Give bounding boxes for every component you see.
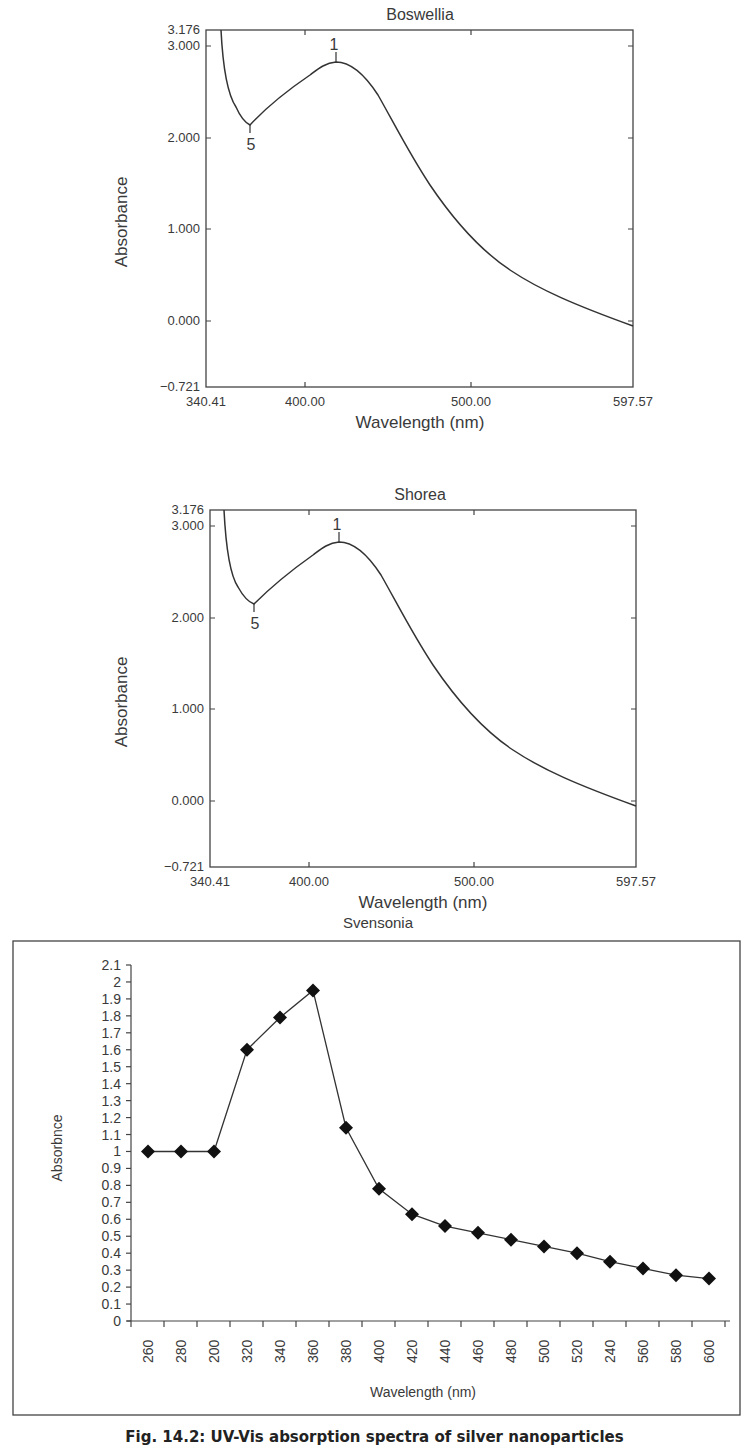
x-tick-label: 280 bbox=[173, 1339, 189, 1363]
svg-text:597.57: 597.57 bbox=[616, 874, 656, 889]
shorea-chart: Shorea 3.176 3.000 2.000 1.000 0.000 −0.… bbox=[0, 480, 749, 960]
boswellia-chart: Boswellia 3.176 3.000 2.000 1.000 0.000 … bbox=[0, 0, 749, 480]
data-line bbox=[148, 990, 709, 1278]
diamond-marker bbox=[636, 1261, 650, 1275]
peak-label: 1 bbox=[333, 516, 342, 533]
x-tick-label: 240 bbox=[602, 1339, 618, 1363]
diamond-marker bbox=[537, 1239, 551, 1253]
y-tick-label: 0.7 bbox=[102, 1194, 122, 1210]
svg-text:3.176: 3.176 bbox=[171, 502, 204, 517]
y-tick-label: 0.1 bbox=[102, 1296, 122, 1312]
y-axis-label: Absorbance bbox=[112, 657, 131, 748]
y-tick-label: 1.6 bbox=[102, 1042, 122, 1058]
svg-text:500.00: 500.00 bbox=[451, 394, 491, 409]
y-axis: 3.176 3.000 2.000 1.000 0.000 −0.721 bbox=[160, 22, 633, 394]
y-tick-label: 1.2 bbox=[102, 1110, 122, 1126]
diamond-marker bbox=[339, 1121, 353, 1135]
svg-text:340.41: 340.41 bbox=[190, 874, 230, 889]
svg-text:400.00: 400.00 bbox=[289, 874, 329, 889]
data-markers bbox=[141, 983, 716, 1285]
x-tick-label: 380 bbox=[338, 1339, 354, 1363]
x-axis: 2602802003203403603804004204404604805005… bbox=[127, 1321, 730, 1363]
x-tick-label: 600 bbox=[701, 1339, 717, 1363]
y-tick-label: 1.3 bbox=[102, 1093, 122, 1109]
y-tick-label: 2.1 bbox=[102, 957, 122, 973]
peak-label: 1 bbox=[330, 36, 339, 53]
x-tick-label: 260 bbox=[140, 1339, 156, 1363]
y-axis: 2.121.91.81.71.61.51.41.31.21.110.90.80.… bbox=[102, 957, 131, 1329]
x-tick-label: 480 bbox=[503, 1339, 519, 1363]
x-tick-label: 500 bbox=[536, 1339, 552, 1363]
diamond-marker bbox=[306, 983, 320, 997]
y-axis: 3.176 3.000 2.000 1.000 0.000 −0.721 bbox=[164, 502, 636, 874]
svg-text:−0.721: −0.721 bbox=[160, 379, 200, 394]
diamond-marker bbox=[174, 1144, 188, 1158]
x-axis-label: Wavelength (nm) bbox=[370, 1384, 476, 1400]
y-tick-label: 0.3 bbox=[102, 1262, 122, 1278]
x-tick-label: 520 bbox=[569, 1339, 585, 1363]
plot-frame bbox=[206, 30, 633, 387]
svg-text:3.000: 3.000 bbox=[171, 518, 204, 533]
svg-text:2.000: 2.000 bbox=[167, 130, 200, 145]
svg-text:1.000: 1.000 bbox=[171, 701, 204, 716]
svg-text:2.000: 2.000 bbox=[171, 610, 204, 625]
x-axis-label: Wavelength (nm) bbox=[356, 413, 485, 432]
y-tick-label: 1.1 bbox=[102, 1127, 122, 1143]
x-tick-label: 400 bbox=[371, 1339, 387, 1363]
y-tick-label: 0 bbox=[113, 1313, 121, 1329]
diamond-marker bbox=[438, 1219, 452, 1233]
x-axis-label: Wavelength (nm) bbox=[359, 893, 488, 912]
y-tick-label: 1.5 bbox=[102, 1059, 122, 1075]
x-tick-label: 440 bbox=[437, 1339, 453, 1363]
svg-text:500.00: 500.00 bbox=[454, 874, 494, 889]
svg-text:3.000: 3.000 bbox=[167, 38, 200, 53]
y-tick-label: 0.5 bbox=[102, 1228, 122, 1244]
diamond-marker bbox=[471, 1226, 485, 1240]
svg-text:0.000: 0.000 bbox=[171, 793, 204, 808]
y-axis-label: Absorbance bbox=[112, 177, 131, 268]
svg-text:−0.721: −0.721 bbox=[164, 859, 204, 874]
diamond-marker bbox=[702, 1272, 716, 1286]
y-tick-label: 0.6 bbox=[102, 1211, 122, 1227]
y-tick-label: 1.4 bbox=[102, 1076, 122, 1092]
spectrum-line bbox=[224, 510, 636, 806]
chart-title: Svensonia bbox=[343, 914, 414, 931]
diamond-marker bbox=[207, 1144, 221, 1158]
figure-caption: Fig. 14.2: UV-Vis absorption spectra of … bbox=[0, 1428, 749, 1446]
y-tick-label: 1.8 bbox=[102, 1008, 122, 1024]
svg-text:340.41: 340.41 bbox=[186, 394, 226, 409]
spectrum-line bbox=[221, 30, 633, 326]
y-tick-label: 2 bbox=[113, 974, 121, 990]
x-tick-label: 580 bbox=[668, 1339, 684, 1363]
y-tick-label: 0.8 bbox=[102, 1177, 122, 1193]
svensonia-chart: Svensonia 2.121.91.81.71.61.51.41.31.21.… bbox=[0, 930, 749, 1430]
valley-label: 5 bbox=[247, 136, 256, 153]
chart-title: Shorea bbox=[394, 486, 446, 503]
svg-text:400.00: 400.00 bbox=[285, 394, 325, 409]
diamond-marker bbox=[570, 1246, 584, 1260]
diamond-marker bbox=[405, 1207, 419, 1221]
diamond-marker bbox=[372, 1182, 386, 1196]
x-tick-label: 560 bbox=[635, 1339, 651, 1363]
svg-text:1.000: 1.000 bbox=[167, 221, 200, 236]
x-tick-label: 320 bbox=[239, 1339, 255, 1363]
plot-frame bbox=[210, 510, 636, 867]
x-tick-label: 460 bbox=[470, 1339, 486, 1363]
svg-text:3.176: 3.176 bbox=[167, 22, 200, 37]
valley-label: 5 bbox=[251, 615, 260, 632]
y-axis-label: Absorbnce bbox=[49, 1114, 65, 1181]
diamond-marker bbox=[141, 1144, 155, 1158]
x-tick-label: 340 bbox=[272, 1339, 288, 1363]
y-tick-label: 1.9 bbox=[102, 991, 122, 1007]
diamond-marker bbox=[603, 1255, 617, 1269]
y-tick-label: 0.2 bbox=[102, 1279, 122, 1295]
x-axis: 340.41 400.00 500.00 597.57 bbox=[190, 510, 656, 889]
x-axis: 340.41 400.00 500.00 597.57 bbox=[186, 30, 653, 409]
svg-text:0.000: 0.000 bbox=[167, 313, 200, 328]
x-tick-label: 360 bbox=[305, 1339, 321, 1363]
x-tick-label: 200 bbox=[206, 1339, 222, 1363]
svg-text:597.57: 597.57 bbox=[613, 394, 653, 409]
y-tick-label: 0.9 bbox=[102, 1160, 122, 1176]
y-tick-label: 0.4 bbox=[102, 1245, 122, 1261]
diamond-marker bbox=[504, 1233, 518, 1247]
